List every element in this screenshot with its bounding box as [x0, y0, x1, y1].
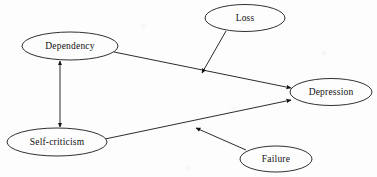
node-loss-label: Loss — [236, 13, 255, 23]
node-self-criticism[interactable]: Self-criticism — [7, 128, 107, 156]
node-self-criticism-label: Self-criticism — [30, 137, 85, 147]
diagram-canvas: Dependency Loss Self-criticism Failure D… — [0, 0, 377, 177]
node-dependency[interactable]: Dependency — [22, 32, 118, 60]
edge-loss-to-depression-path — [202, 31, 226, 73]
node-dependency-label: Dependency — [45, 41, 95, 51]
path-diagram: Dependency Loss Self-criticism Failure D… — [0, 0, 377, 177]
node-depression[interactable]: Depression — [290, 79, 372, 106]
node-depression-label: Depression — [309, 87, 354, 97]
edge-self-criticism-to-depression — [105, 100, 291, 139]
edge-dependency-to-depression — [114, 52, 291, 88]
edge-failure-to-depression-path — [196, 128, 246, 150]
node-loss[interactable]: Loss — [205, 5, 285, 32]
nodes-group: Dependency Loss Self-criticism Failure D… — [7, 5, 372, 173]
node-failure-label: Failure — [262, 154, 290, 164]
node-failure[interactable]: Failure — [240, 146, 312, 172]
